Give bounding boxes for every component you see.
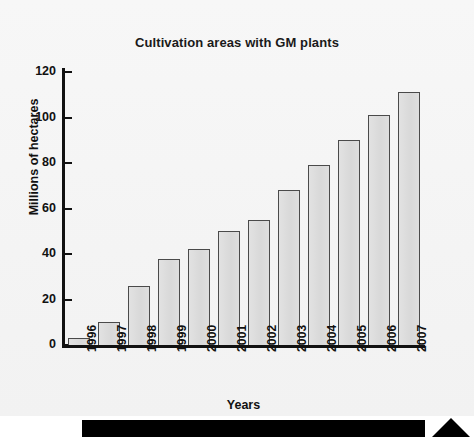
triangle-up-icon[interactable] <box>432 418 470 437</box>
bar-2004 <box>308 165 330 345</box>
x-axis-tick-label: 1998 <box>145 325 159 353</box>
bottom-black-bar <box>82 420 425 437</box>
x-axis-tick-label: 2006 <box>385 325 399 353</box>
y-axis-title: Millions of hectares <box>27 47 41 267</box>
bar-2005 <box>338 140 360 345</box>
x-axis-tick-label: 1996 <box>85 325 99 353</box>
bar-2006 <box>368 115 390 345</box>
x-axis-tick-label: 1999 <box>175 325 189 353</box>
bar-2007 <box>398 92 420 345</box>
x-axis-tick-label: 2007 <box>415 325 429 353</box>
x-axis-tick-label: 2002 <box>265 325 279 353</box>
bar-2003 <box>278 190 300 345</box>
figure-background: Cultivation areas with GM plants 0204060… <box>0 0 474 416</box>
x-axis-tick-label: 2001 <box>235 325 249 353</box>
x-axis-tick-label: 2004 <box>325 325 339 353</box>
x-axis-title: Years <box>62 398 425 412</box>
x-axis-tick-label: 2003 <box>295 325 309 353</box>
x-axis-tick-label: 2005 <box>355 325 369 353</box>
x-axis-tick-label: 2000 <box>205 325 219 353</box>
plot-area <box>64 72 424 345</box>
x-axis-tick-label: 1997 <box>115 325 129 353</box>
